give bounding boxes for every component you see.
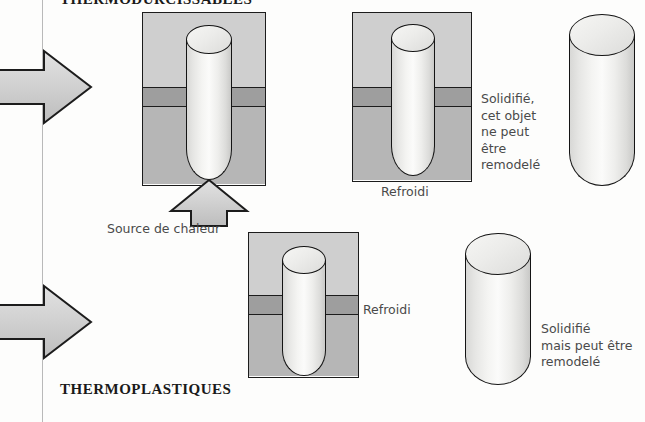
thermoset-result-label: Solidifié, cet objet ne peut être remode…: [481, 91, 540, 174]
finished-part-thermoset: [569, 14, 635, 186]
molded-part-cooled-top: [391, 24, 435, 176]
process-arrow-bottom-icon: [0, 283, 94, 361]
molded-part-cooled-bottom: [282, 246, 326, 376]
finished-part-thermoplastic: [465, 233, 531, 385]
cooled-label-bottom: Refroidi: [363, 302, 411, 319]
figure-canvas: THERMODURCISSABLES THERMOPLASTIQUES Sour…: [0, 0, 645, 422]
section-title-thermoplastics: THERMOPLASTIQUES: [60, 381, 231, 398]
heat-source-label: Source de chaleur: [107, 221, 220, 238]
thermoplastic-result-label: Solidifié mais peut être remodelé: [541, 321, 632, 371]
molded-part-heated: [186, 25, 232, 180]
section-title-thermosets: THERMODURCISSABLES: [60, 0, 252, 8]
process-arrow-top-icon: [0, 48, 94, 126]
cooled-label-top: Refroidi: [381, 184, 429, 201]
